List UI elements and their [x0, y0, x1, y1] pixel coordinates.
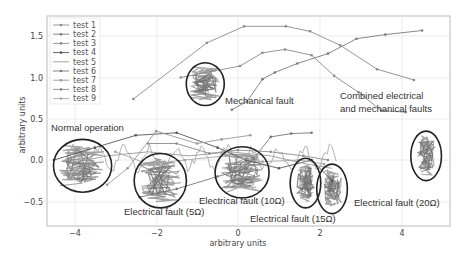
legend: test 1test 2test 3test 4test 5test 6test… — [50, 18, 100, 104]
x-axis-label: arbitrary units — [209, 239, 266, 248]
y-tick: −0.5 — [24, 198, 43, 207]
legend-item: test 1 — [73, 21, 96, 30]
legend-item: test 3 — [73, 39, 96, 48]
annotation-mechanical: Mechanical fault — [225, 95, 294, 106]
x-tick: 0 — [235, 229, 240, 238]
annotation-e20: Electrical fault (20Ω) — [354, 197, 440, 208]
x-tick: 2 — [317, 229, 322, 238]
x-tick: −2 — [151, 229, 163, 238]
legend-item: test 6 — [73, 67, 96, 76]
legend-item: test 2 — [73, 30, 96, 39]
y-axis-label: arbitrary units — [18, 96, 27, 153]
legend-item: test 8 — [73, 85, 96, 94]
annotation-e5: Electrical fault (5Ω) — [124, 206, 205, 217]
annotation-normal: Normal operation — [51, 122, 124, 133]
annotation-e15: Electrical fault (15Ω) — [250, 213, 336, 224]
legend-item: test 7 — [73, 76, 96, 85]
y-tick: 1.5 — [30, 32, 43, 41]
x-tick: −4 — [69, 229, 81, 238]
y-tick: 0.5 — [30, 115, 43, 124]
legend-item: test 9 — [73, 94, 96, 103]
y-tick: 1.0 — [30, 74, 43, 83]
fault-trajectory-chart: Normal operation Mechanical fault Electr… — [0, 0, 469, 256]
annotation-combined-2: and mechanical faults — [340, 103, 432, 114]
y-tick: 0.0 — [30, 156, 43, 165]
annotation-combined-1: Combined electrical — [340, 90, 423, 101]
x-axis: −4 −2 0 2 4 arbitrary units — [69, 229, 404, 248]
legend-item: test 4 — [73, 48, 96, 57]
annotation-e10: Electrical fault (10Ω) — [199, 195, 285, 206]
x-tick: 4 — [399, 229, 404, 238]
legend-item: test 5 — [73, 58, 96, 67]
y-axis: 1.5 1.0 0.5 0.0 −0.5 arbitrary units — [18, 32, 43, 207]
